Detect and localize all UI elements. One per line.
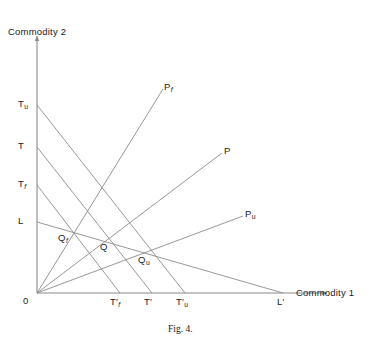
label-Pf: Pf (164, 82, 173, 92)
x-axis-title-text: Commodity 1 (296, 287, 354, 298)
label-Q-base: Q (100, 241, 108, 252)
label-P: P (224, 146, 231, 156)
label-Qu-base: Q (138, 254, 146, 265)
label-Tfp: T′f (110, 297, 120, 307)
label-L-base: L (18, 215, 23, 226)
label-T-base: T (18, 140, 24, 151)
label-Tu: Tu (18, 99, 28, 109)
label-L: L (18, 216, 23, 226)
y-axis-title: Commodity 2 (8, 27, 66, 37)
label-Tp: T′ (144, 297, 152, 307)
label-Pf-sub: f (171, 86, 173, 93)
origin-label: 0 (23, 296, 28, 306)
figure-container: Commodity 2 Commodity 1 0 Tu T Tf L T′f … (0, 0, 375, 344)
label-Tp-prime: ′ (150, 296, 152, 307)
budget-line-Tf-Tfp (37, 185, 120, 293)
label-Tup-sub: u (184, 301, 188, 308)
label-Q: Q (100, 242, 108, 252)
label-Lp: L′ (277, 297, 284, 307)
label-Qu: Qu (138, 255, 150, 265)
label-Tup: T′u (176, 297, 188, 307)
label-Pu-base: P (245, 208, 252, 219)
label-Qf-sub: f (66, 237, 68, 244)
label-Qf-base: Q (58, 232, 66, 243)
label-Pf-base: P (164, 81, 171, 92)
label-Qf: Qf (58, 233, 68, 243)
x-axis-title: Commodity 1 (296, 288, 354, 298)
y-axis-title-text: Commodity 2 (8, 26, 66, 37)
label-Tu-sub: u (24, 103, 28, 110)
label-Pu: Pu (245, 209, 256, 219)
label-Pu-sub: u (252, 213, 256, 220)
price-ray-P (37, 153, 222, 293)
label-P-base: P (224, 145, 231, 156)
label-Qu-sub: u (146, 259, 150, 266)
label-T: T (18, 141, 24, 151)
figure-caption: Fig. 4. (168, 324, 193, 334)
figure-caption-text: Fig. 4. (168, 324, 193, 334)
label-Lp-prime: ′ (282, 296, 284, 307)
origin-label-text: 0 (23, 295, 28, 306)
budget-line-Tu-Tup (37, 105, 185, 293)
label-Tf: Tf (18, 179, 26, 189)
